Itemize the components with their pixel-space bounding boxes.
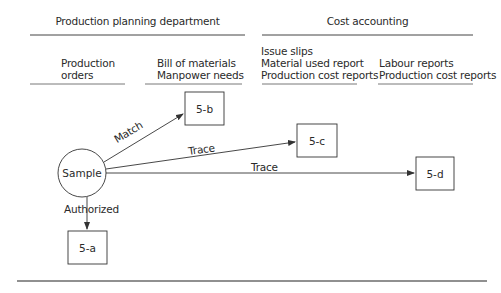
box-5d-label: 5-d [416,157,454,190]
column-text-line: Bill of materials [157,57,244,69]
column-production-orders: Production orders [61,57,115,81]
column-issue-slips: Issue slips Material used report Product… [261,45,378,81]
box-5c-label: 5-c [297,124,337,157]
authorized-edge-label: Authorized [64,203,119,215]
column-text-line: Production [61,57,115,69]
column-labour-reports: Labour reports Production cost reports [379,57,496,81]
trace-edge-label-5d: Trace [251,161,278,173]
column-text-line: Issue slips [261,45,378,57]
column-text-line: Production cost reports [261,69,378,81]
column-text-line: Production cost reports [379,69,496,81]
column-text-line: Labour reports [379,57,496,69]
box-5a-label: 5-a [68,231,107,264]
header-cost-accounting: Cost accounting [262,15,473,27]
column-text-line: Material used report [261,57,378,69]
column-text-line: Manpower needs [157,69,244,81]
sample-node-label: Sample [58,166,106,180]
column-bill-of-materials: Bill of materials Manpower needs [157,57,244,81]
header-production-planning: Production planning department [30,15,245,27]
box-5b-label: 5-b [185,92,224,125]
column-text-line: orders [61,69,115,81]
